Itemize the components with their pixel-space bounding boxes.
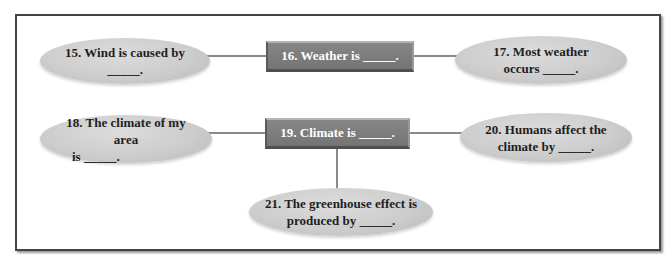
node-21-greenhouse-effect: 21. The greenhouse effect is produced by… [249, 188, 433, 236]
node-18-local-climate: 18. The climate of my area is _____. [40, 115, 212, 163]
node-18-line2: is _____. [54, 148, 198, 165]
connector-18-19 [208, 132, 268, 134]
node-17-line1: 17. Most weather [493, 43, 589, 60]
node-16-weather: 16. Weather is _____. [266, 41, 414, 72]
node-18-line1: 18. The climate of my area [54, 114, 198, 148]
node-21-line2: produced by _____. [265, 212, 417, 229]
node-19-text: 19. Climate is _____. [280, 125, 394, 141]
node-15-text: 15. Wind is caused by _____. [54, 44, 196, 78]
connector-19-20 [408, 132, 464, 134]
node-20-line2: climate by _____. [485, 138, 606, 155]
connector-16-17 [412, 55, 458, 57]
node-20-line1: 20. Humans affect the [485, 121, 606, 138]
node-17-line2: occurs _____. [493, 60, 589, 77]
node-21-line1: 21. The greenhouse effect is [265, 195, 417, 212]
node-19-climate: 19. Climate is _____. [265, 118, 410, 149]
node-20-humans-affect: 20. Humans affect the climate by _____. [460, 113, 632, 162]
node-17-weather-occurs: 17. Most weather occurs _____. [455, 36, 627, 84]
node-16-text: 16. Weather is _____. [281, 48, 399, 64]
node-15-wind: 15. Wind is caused by _____. [40, 38, 210, 84]
connector-19-21 [336, 147, 338, 191]
connector-15-16 [206, 55, 268, 57]
